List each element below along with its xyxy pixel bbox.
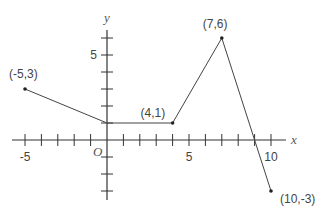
origin-label: O xyxy=(93,144,103,159)
point-label: (10,-3) xyxy=(280,192,315,206)
plot-canvas: -55105xyO(-5,3)(4,1)(7,6)(10,-3) xyxy=(0,0,333,219)
data-point xyxy=(220,36,224,40)
x-tick-label: 5 xyxy=(186,150,193,164)
x-tick-label: -5 xyxy=(20,150,31,164)
point-label: (7,6) xyxy=(203,17,228,31)
y-axis-label: y xyxy=(102,10,110,25)
data-point xyxy=(23,87,27,91)
point-label: (-5,3) xyxy=(9,67,38,81)
x-tick-label: 10 xyxy=(264,150,278,164)
data-point xyxy=(269,189,273,193)
y-tick-label: 5 xyxy=(90,48,97,62)
point-label: (4,1) xyxy=(141,106,166,120)
x-axis-label: x xyxy=(290,132,297,147)
coordinate-plot: -55105xyO(-5,3)(4,1)(7,6)(10,-3) xyxy=(0,0,333,219)
data-point xyxy=(171,121,175,125)
